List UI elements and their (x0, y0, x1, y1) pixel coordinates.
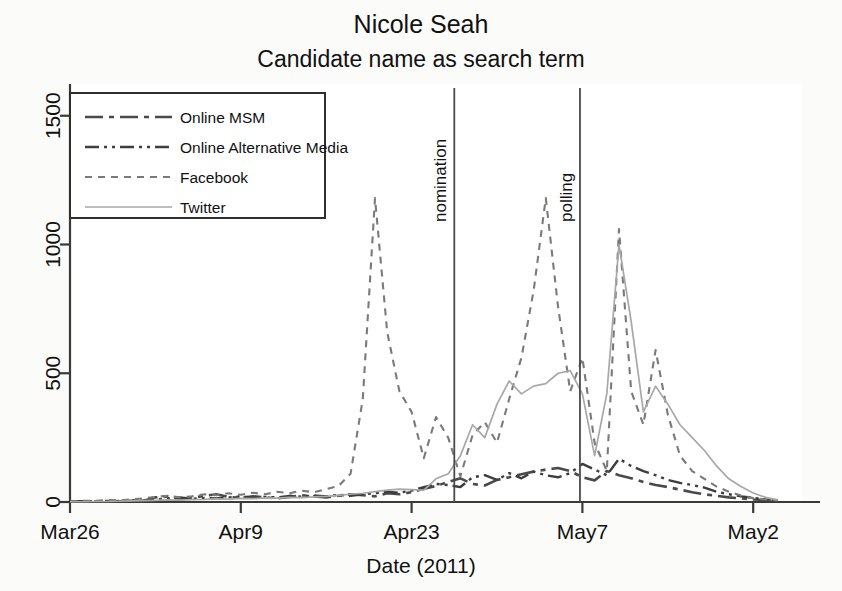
chart-legend: Online MSMOnline Alternative MediaFacebo… (70, 93, 348, 218)
annotation-label: polling (557, 173, 576, 222)
chart-subtitle: Candidate name as search term (257, 46, 584, 72)
legend-label: Twitter (180, 199, 226, 216)
legend-label: Online MSM (180, 109, 265, 126)
chart-figure: Nicole Seah Candidate name as search ter… (0, 0, 842, 591)
y-tick-label: 0 (41, 496, 64, 508)
x-tick-label: May7 (557, 520, 608, 543)
legend-label: Online Alternative Media (180, 139, 348, 156)
chart-title: Nicole Seah (354, 10, 489, 38)
annotation-label: nomination (431, 139, 450, 222)
x-tick-label: Apr23 (384, 520, 440, 543)
legend-label: Facebook (180, 169, 248, 186)
x-tick-label: Apr9 (219, 520, 263, 543)
x-axis-label: Date (2011) (366, 554, 475, 577)
x-tick-label: Mar26 (40, 520, 100, 543)
chart-canvas: Nicole Seah Candidate name as search ter… (0, 0, 842, 591)
y-tick-label: 500 (41, 356, 64, 391)
x-tick-label: May2 (728, 520, 779, 543)
y-tick-label: 1500 (41, 92, 64, 139)
y-tick-label: 1000 (41, 221, 64, 268)
